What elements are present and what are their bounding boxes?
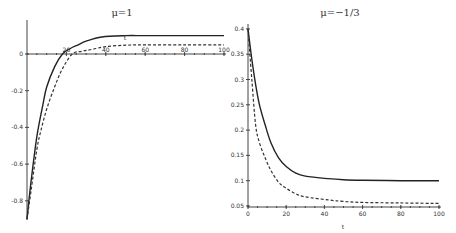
chart-title: μ=−1/3 (320, 7, 359, 18)
series-dashed-line (27, 45, 224, 219)
y-tick-label: -0.2 (11, 87, 23, 94)
x-tick-label: 40 (321, 210, 329, 217)
y-tick-label: 0.05 (231, 202, 245, 209)
series-dashed-line (248, 29, 439, 204)
axes (25, 20, 226, 220)
y-tick-label: -0.6 (11, 160, 23, 167)
chart-mu-minus-one-third: μ=−1/3 0.40.350.30.250.20.150.10.0502040… (231, 7, 445, 230)
chart-title: μ=1 (111, 7, 132, 18)
figure: μ=1 0-0.2-0.4-0.6-0.820406080100 t μ=−1/… (0, 0, 456, 233)
tick-labels: 0.40.350.30.250.20.150.10.05020406080100 (231, 25, 445, 217)
series-solid-line (248, 29, 439, 181)
x-axis-label: t (342, 223, 345, 230)
y-tick-label: 0.3 (234, 76, 244, 83)
y-tick-label: 0.4 (234, 25, 244, 32)
y-tick-label: -0.4 (11, 123, 23, 130)
x-tick-label: 100 (433, 210, 445, 217)
series-lines (248, 29, 439, 204)
x-tick-label: 60 (359, 210, 367, 217)
series-lines (27, 36, 224, 220)
chart-mu-1: μ=1 0-0.2-0.4-0.6-0.820406080100 t (11, 7, 230, 220)
y-tick-label: 0 (19, 50, 23, 57)
x-tick-label: 0 (246, 210, 250, 217)
y-tick-label: 0.15 (231, 151, 245, 158)
series-solid-line (27, 36, 224, 220)
y-tick-label: 0.35 (231, 50, 245, 57)
x-tick-label: 80 (181, 46, 189, 53)
x-tick-label: 20 (282, 210, 290, 217)
y-tick-label: 0.2 (234, 126, 244, 133)
y-tick-label: 0.1 (234, 177, 244, 184)
x-tick-label: 100 (218, 46, 230, 53)
x-tick-label: 80 (397, 210, 405, 217)
y-tick-label: -0.8 (11, 197, 23, 204)
x-tick-label: 60 (141, 46, 149, 53)
tick-labels: 0-0.2-0.4-0.6-0.820406080100 (11, 46, 230, 204)
y-tick-label: 0.25 (231, 101, 245, 108)
